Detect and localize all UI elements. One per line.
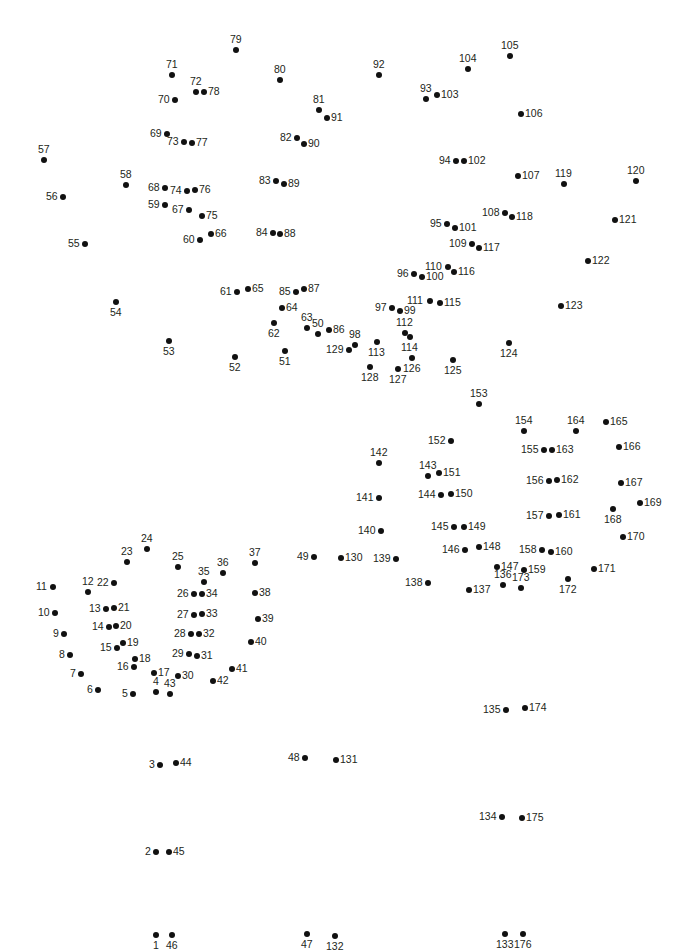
dot-74[interactable] (184, 188, 190, 194)
dot-57[interactable] (41, 157, 47, 163)
dot-138[interactable] (425, 580, 431, 586)
dot-49[interactable] (311, 554, 317, 560)
dot-151[interactable] (436, 470, 442, 476)
dot-75[interactable] (199, 213, 205, 219)
dot-36[interactable] (220, 570, 226, 576)
dot-18[interactable] (132, 656, 138, 662)
dot-6[interactable] (95, 687, 101, 693)
dot-152[interactable] (448, 438, 454, 444)
dot-46[interactable] (169, 932, 175, 938)
dot-24[interactable] (144, 546, 150, 552)
dot-103[interactable] (434, 92, 440, 98)
dot-51[interactable] (282, 348, 288, 354)
dot-167[interactable] (618, 480, 624, 486)
dot-94[interactable] (453, 158, 459, 164)
dot-130[interactable] (338, 555, 344, 561)
dot-125[interactable] (450, 357, 456, 363)
dot-133[interactable] (502, 931, 508, 937)
dot-17[interactable] (151, 670, 157, 676)
dot-90[interactable] (301, 141, 307, 147)
dot-41[interactable] (229, 666, 235, 672)
dot-155[interactable] (541, 447, 547, 453)
dot-38[interactable] (252, 590, 258, 596)
dot-83[interactable] (273, 178, 279, 184)
dot-174[interactable] (522, 705, 528, 711)
dot-106[interactable] (518, 111, 524, 117)
dot-14[interactable] (106, 624, 112, 630)
dot-59[interactable] (162, 202, 168, 208)
dot-19[interactable] (120, 640, 126, 646)
dot-33[interactable] (199, 611, 205, 617)
dot-120[interactable] (633, 178, 639, 184)
dot-37[interactable] (252, 560, 258, 566)
dot-170[interactable] (620, 534, 626, 540)
dot-163[interactable] (549, 447, 555, 453)
dot-115[interactable] (437, 300, 443, 306)
dot-42[interactable] (210, 678, 216, 684)
dot-156[interactable] (546, 478, 552, 484)
dot-80[interactable] (277, 77, 283, 83)
dot-87[interactable] (301, 286, 307, 292)
dot-158[interactable] (539, 547, 545, 553)
dot-118[interactable] (509, 214, 515, 220)
dot-43[interactable] (167, 691, 173, 697)
dot-28[interactable] (188, 631, 194, 637)
dot-113[interactable] (374, 339, 380, 345)
dot-29[interactable] (186, 651, 192, 657)
dot-176[interactable] (520, 931, 526, 937)
dot-39[interactable] (255, 616, 261, 622)
dot-78[interactable] (201, 89, 207, 95)
dot-122[interactable] (585, 258, 591, 264)
dot-50[interactable] (315, 331, 321, 337)
dot-61[interactable] (234, 289, 240, 295)
dot-145[interactable] (451, 524, 457, 530)
dot-45[interactable] (166, 849, 172, 855)
dot-110[interactable] (445, 264, 451, 270)
dot-149[interactable] (461, 524, 467, 530)
dot-141[interactable] (376, 495, 382, 501)
dot-27[interactable] (191, 612, 197, 618)
dot-171[interactable] (591, 566, 597, 572)
dot-20[interactable] (113, 623, 119, 629)
dot-99[interactable] (397, 308, 403, 314)
dot-16[interactable] (131, 664, 137, 670)
dot-100[interactable] (419, 274, 425, 280)
dot-172[interactable] (565, 576, 571, 582)
dot-65[interactable] (245, 286, 251, 292)
dot-96[interactable] (411, 271, 417, 277)
dot-2[interactable] (153, 849, 159, 855)
dot-77[interactable] (189, 140, 195, 146)
dot-89[interactable] (281, 181, 287, 187)
dot-76[interactable] (192, 187, 198, 193)
dot-91[interactable] (324, 115, 330, 121)
dot-47[interactable] (304, 931, 310, 937)
dot-79[interactable] (233, 47, 239, 53)
dot-144[interactable] (438, 492, 444, 498)
dot-4[interactable] (153, 689, 159, 695)
dot-3[interactable] (157, 762, 163, 768)
dot-88[interactable] (277, 231, 283, 237)
dot-114[interactable] (407, 334, 413, 340)
dot-10[interactable] (52, 610, 58, 616)
dot-104[interactable] (465, 66, 471, 72)
dot-82[interactable] (294, 135, 300, 141)
dot-117[interactable] (476, 245, 482, 251)
dot-1[interactable] (153, 932, 159, 938)
dot-128[interactable] (367, 364, 373, 370)
dot-85[interactable] (293, 289, 299, 295)
dot-153[interactable] (476, 401, 482, 407)
dot-5[interactable] (130, 691, 136, 697)
dot-7[interactable] (78, 671, 84, 677)
dot-126[interactable] (409, 355, 415, 361)
dot-105[interactable] (507, 53, 513, 59)
dot-12[interactable] (85, 589, 91, 595)
dot-108[interactable] (502, 210, 508, 216)
dot-66[interactable] (208, 231, 214, 237)
dot-11[interactable] (50, 584, 56, 590)
dot-154[interactable] (521, 428, 527, 434)
dot-92[interactable] (376, 72, 382, 78)
dot-164[interactable] (573, 428, 579, 434)
dot-143[interactable] (425, 473, 431, 479)
dot-160[interactable] (548, 549, 554, 555)
dot-140[interactable] (378, 528, 384, 534)
